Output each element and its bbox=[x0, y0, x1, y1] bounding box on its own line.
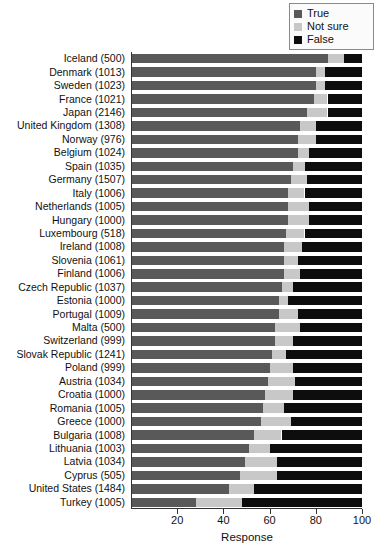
bar-segment-false[interactable] bbox=[277, 457, 362, 467]
bar-segment-not-sure[interactable] bbox=[268, 377, 296, 387]
bar-row[interactable] bbox=[132, 148, 362, 158]
bar-segment-false[interactable] bbox=[309, 148, 362, 158]
bar-segment-false[interactable] bbox=[293, 363, 362, 373]
bar-segment-false[interactable] bbox=[305, 188, 363, 198]
bar-row[interactable] bbox=[132, 269, 362, 279]
bar-segment-false[interactable] bbox=[293, 336, 362, 346]
bar-segment-not-sure[interactable] bbox=[229, 484, 254, 494]
bar-row[interactable] bbox=[132, 121, 362, 131]
bar-segment-not-sure[interactable] bbox=[291, 175, 307, 185]
bar-segment-false[interactable] bbox=[307, 175, 362, 185]
bar-segment-false[interactable] bbox=[325, 67, 362, 77]
bar-segment-true[interactable] bbox=[132, 215, 288, 225]
legend-item-false[interactable]: False bbox=[294, 33, 369, 46]
bar-segment-true[interactable] bbox=[132, 242, 284, 252]
bar-segment-false[interactable] bbox=[295, 377, 362, 387]
legend-item-true[interactable]: True bbox=[294, 7, 369, 20]
bar-row[interactable] bbox=[132, 430, 362, 440]
bar-segment-true[interactable] bbox=[132, 417, 261, 427]
bar-segment-not-sure[interactable] bbox=[307, 108, 328, 118]
bar-segment-true[interactable] bbox=[132, 390, 265, 400]
bar-segment-true[interactable] bbox=[132, 363, 270, 373]
bar-segment-true[interactable] bbox=[132, 121, 300, 131]
bar-segment-not-sure[interactable] bbox=[288, 188, 304, 198]
bar-row[interactable] bbox=[132, 336, 362, 346]
bar-segment-not-sure[interactable] bbox=[284, 269, 300, 279]
bar-row[interactable] bbox=[132, 323, 362, 333]
bar-segment-false[interactable] bbox=[286, 350, 362, 360]
bar-segment-not-sure[interactable] bbox=[316, 81, 325, 91]
bar-segment-not-sure[interactable] bbox=[282, 282, 294, 292]
bar-segment-true[interactable] bbox=[132, 108, 307, 118]
bar-segment-false[interactable] bbox=[316, 121, 362, 131]
bar-segment-true[interactable] bbox=[132, 282, 282, 292]
bar-segment-true[interactable] bbox=[132, 94, 314, 104]
bar-segment-true[interactable] bbox=[132, 81, 316, 91]
bar-segment-true[interactable] bbox=[132, 457, 245, 467]
bar-row[interactable] bbox=[132, 309, 362, 319]
bar-row[interactable] bbox=[132, 363, 362, 373]
bar-row[interactable] bbox=[132, 256, 362, 266]
bar-segment-true[interactable] bbox=[132, 162, 293, 172]
bar-segment-false[interactable] bbox=[242, 498, 362, 508]
bar-segment-false[interactable] bbox=[328, 94, 363, 104]
bar-segment-not-sure[interactable] bbox=[261, 417, 291, 427]
bar-row[interactable] bbox=[132, 188, 362, 198]
bar-segment-not-sure[interactable] bbox=[298, 135, 316, 145]
bar-segment-not-sure[interactable] bbox=[249, 444, 270, 454]
bar-segment-false[interactable] bbox=[325, 81, 362, 91]
bar-row[interactable] bbox=[132, 54, 362, 64]
bar-row[interactable] bbox=[132, 202, 362, 212]
bar-row[interactable] bbox=[132, 215, 362, 225]
legend-item-not-sure[interactable]: Not sure bbox=[294, 20, 369, 33]
bar-segment-false[interactable] bbox=[288, 296, 362, 306]
bar-row[interactable] bbox=[132, 377, 362, 387]
bar-segment-not-sure[interactable] bbox=[288, 215, 309, 225]
bar-segment-true[interactable] bbox=[132, 377, 268, 387]
bar-row[interactable] bbox=[132, 296, 362, 306]
bar-row[interactable] bbox=[132, 350, 362, 360]
bar-segment-true[interactable] bbox=[132, 403, 263, 413]
bar-segment-true[interactable] bbox=[132, 498, 196, 508]
bar-segment-true[interactable] bbox=[132, 54, 328, 64]
bar-segment-false[interactable] bbox=[298, 309, 362, 319]
bar-segment-true[interactable] bbox=[132, 444, 249, 454]
bar-segment-true[interactable] bbox=[132, 269, 284, 279]
bar-row[interactable] bbox=[132, 94, 362, 104]
bar-segment-false[interactable] bbox=[302, 242, 362, 252]
bar-segment-not-sure[interactable] bbox=[275, 336, 293, 346]
bar-segment-false[interactable] bbox=[293, 282, 362, 292]
bar-row[interactable] bbox=[132, 229, 362, 239]
bar-segment-true[interactable] bbox=[132, 471, 240, 481]
bar-segment-false[interactable] bbox=[309, 202, 362, 212]
bar-segment-not-sure[interactable] bbox=[286, 229, 304, 239]
bar-row[interactable] bbox=[132, 471, 362, 481]
bar-segment-true[interactable] bbox=[132, 484, 229, 494]
bar-segment-true[interactable] bbox=[132, 350, 272, 360]
bar-row[interactable] bbox=[132, 162, 362, 172]
bar-segment-true[interactable] bbox=[132, 309, 279, 319]
bar-segment-not-sure[interactable] bbox=[288, 202, 309, 212]
bar-segment-not-sure[interactable] bbox=[254, 430, 282, 440]
bar-segment-not-sure[interactable] bbox=[245, 457, 277, 467]
bar-row[interactable] bbox=[132, 108, 362, 118]
bar-segment-not-sure[interactable] bbox=[316, 67, 325, 77]
bar-row[interactable] bbox=[132, 484, 362, 494]
bar-segment-true[interactable] bbox=[132, 229, 286, 239]
bar-segment-not-sure[interactable] bbox=[196, 498, 242, 508]
bar-segment-not-sure[interactable] bbox=[300, 121, 316, 131]
bar-segment-true[interactable] bbox=[132, 430, 254, 440]
bar-row[interactable] bbox=[132, 175, 362, 185]
bar-segment-false[interactable] bbox=[270, 444, 362, 454]
bar-segment-false[interactable] bbox=[254, 484, 362, 494]
bar-segment-not-sure[interactable] bbox=[298, 148, 310, 158]
bar-segment-true[interactable] bbox=[132, 256, 284, 266]
bar-segment-true[interactable] bbox=[132, 336, 275, 346]
bar-row[interactable] bbox=[132, 135, 362, 145]
bar-row[interactable] bbox=[132, 417, 362, 427]
bar-row[interactable] bbox=[132, 444, 362, 454]
bar-segment-true[interactable] bbox=[132, 135, 298, 145]
bar-segment-true[interactable] bbox=[132, 188, 288, 198]
bar-segment-not-sure[interactable] bbox=[270, 363, 293, 373]
bar-segment-not-sure[interactable] bbox=[279, 296, 288, 306]
